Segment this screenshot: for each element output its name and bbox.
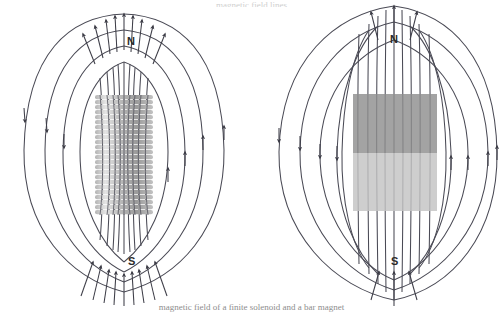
north-arrow-2: [95, 26, 103, 58]
magnetic-field-figure: magnetic field lines: [0, 0, 503, 312]
barmagnet-field-svg: [265, 0, 503, 312]
north-exit-arrows: [83, 14, 165, 64]
panel-solenoid: N S: [0, 0, 265, 312]
barmagnet-south-half: [353, 153, 437, 211]
panel-barmagnet: N S: [265, 0, 503, 312]
barmagnet-south-label: S: [391, 256, 398, 267]
figure-caption: magnetic field of a finite solenoid and …: [0, 302, 503, 312]
loop-arrow-left-1: [24, 108, 25, 122]
south-arrow-4: [114, 272, 116, 305]
south-entry-arrows: [81, 262, 167, 306]
north-arrow-7: [138, 20, 142, 54]
bm-north-arrow-r: [410, 12, 417, 40]
solenoid-north-label: N: [127, 36, 135, 47]
north-arrow-8: [145, 26, 153, 58]
north-arrow-4: [115, 16, 117, 52]
south-arrow-6: [132, 272, 134, 305]
north-arrow-3: [106, 20, 110, 54]
barmagnet-north-label: N: [390, 34, 398, 45]
bm-north-arrow-l: [371, 12, 378, 40]
solenoid-south-label: S: [128, 256, 135, 267]
barmagnet-north-half: [353, 94, 437, 153]
barmagnet-body: [353, 94, 437, 211]
